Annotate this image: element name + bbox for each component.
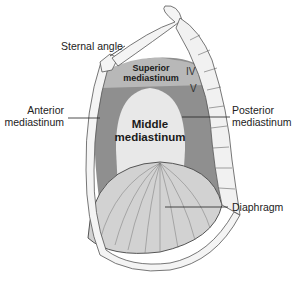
label-sternal-angle: Sternal angle — [61, 40, 123, 52]
label-diaphragm: Diaphragm — [232, 201, 283, 213]
label-vertebra-iv: IV — [186, 66, 195, 78]
label-superior-mediastinum: Superior mediastinum — [120, 63, 182, 83]
first-rib — [112, 6, 182, 66]
label-posterior-mediastinum: Posterior mediastinum — [232, 104, 292, 128]
label-middle-mediastinum: Middle mediastinum — [110, 118, 190, 144]
label-vertebra-v: V — [190, 83, 197, 95]
label-anterior-mediastinum: Anterior mediastinum — [0, 104, 64, 128]
